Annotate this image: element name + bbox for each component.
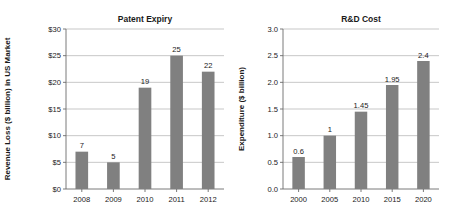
y-tick-label: 0.0 (267, 185, 278, 194)
x-tick-label: 2000 (290, 195, 307, 204)
y-tick-label: $15 (48, 105, 61, 114)
y-tick-label: $10 (48, 131, 61, 140)
y-tick-label: $0 (53, 185, 61, 194)
bar (324, 136, 336, 189)
y-tick-label: $30 (48, 25, 61, 34)
bar-value-label: 22 (204, 61, 212, 70)
bar (202, 72, 215, 189)
bar (107, 162, 120, 189)
bar (170, 56, 183, 189)
y-tick-label: 0.5 (267, 158, 278, 167)
y-tick-label: $25 (48, 51, 61, 60)
bar (139, 88, 152, 189)
x-tick-label: 2015 (384, 195, 401, 204)
bar-value-label: 25 (172, 45, 180, 54)
y-tick-label: $5 (53, 158, 61, 167)
y-tick-label: 2.0 (267, 78, 278, 87)
x-tick-label: 2020 (415, 195, 432, 204)
x-tick-label: 2010 (353, 195, 370, 204)
bar (75, 152, 88, 189)
bar-value-label: 7 (80, 141, 84, 150)
bar-value-label: 2.4 (418, 51, 429, 60)
x-tick-label: 2005 (321, 195, 338, 204)
rd-cost-chart: Expenditure ($ billion)R&D Cost0.00.51.0… (228, 0, 457, 217)
x-tick-label: 2009 (105, 195, 122, 204)
bar (386, 85, 398, 189)
chart-title: R&D Cost (341, 14, 381, 24)
y-axis-title: Revenue Loss ($ billion) in US Market (3, 37, 12, 180)
bar-value-label: 1.45 (354, 101, 369, 110)
bar (417, 61, 429, 189)
chart-panel-patent-expiry: Revenue Loss ($ billion) in US MarketPat… (0, 0, 229, 217)
bar-value-label: 0.6 (293, 147, 304, 156)
x-tick-label: 2011 (168, 195, 184, 204)
dual-bar-chart-figure: Revenue Loss ($ billion) in US MarketPat… (0, 0, 457, 217)
bar-value-label: 19 (141, 77, 149, 86)
bar (355, 112, 367, 189)
y-tick-label: 3.0 (267, 25, 278, 34)
x-tick-label: 2012 (200, 195, 217, 204)
y-tick-label: 2.5 (267, 51, 278, 60)
bar-value-label: 1 (328, 125, 332, 134)
patent-expiry-chart: Revenue Loss ($ billion) in US MarketPat… (0, 0, 229, 217)
y-tick-label: 1.5 (267, 105, 278, 114)
y-tick-label: 1.0 (267, 131, 278, 140)
bar-value-label: 1.95 (385, 75, 400, 84)
y-tick-label: $20 (48, 78, 61, 87)
chart-title: Patent Expiry (118, 14, 173, 24)
x-tick-label: 2010 (137, 195, 154, 204)
x-tick-label: 2008 (73, 195, 90, 204)
bar (292, 157, 304, 189)
bar-value-label: 5 (111, 152, 115, 161)
chart-panel-rd-cost: Expenditure ($ billion)R&D Cost0.00.51.0… (228, 0, 457, 217)
y-axis-title: Expenditure ($ billion) (237, 67, 246, 151)
